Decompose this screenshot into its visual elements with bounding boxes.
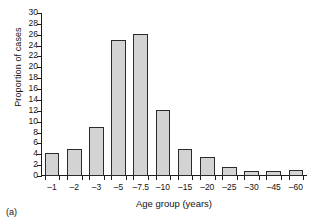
panel-label: (a) [6, 207, 17, 217]
bar [200, 157, 215, 176]
x-tick-mark [59, 176, 60, 180]
x-tick-mark [237, 176, 238, 180]
y-tick-label: 28 [29, 18, 38, 29]
y-tick-label: 14 [29, 94, 38, 105]
bar [289, 170, 304, 176]
bar [244, 171, 259, 176]
y-axis-line [41, 13, 42, 176]
x-tick-label: –5 [114, 182, 123, 193]
y-tick-label: 16 [29, 83, 38, 94]
y-tick-label: 26 [29, 29, 38, 40]
x-tick-mark [281, 176, 282, 180]
x-tick-mark [215, 176, 216, 180]
y-tick-label: 8 [33, 127, 38, 138]
x-tick-label: –2 [70, 182, 79, 193]
x-tick-mark [82, 176, 83, 180]
x-tick-mark [266, 176, 267, 180]
x-tick-label: –20 [200, 182, 214, 193]
x-tick-mark [244, 176, 245, 180]
x-tick-label: –10 [156, 182, 170, 193]
x-tick-mark [45, 176, 46, 180]
bar [67, 149, 82, 176]
y-tick-label: 2 [33, 159, 38, 170]
x-tick-mark [148, 176, 149, 180]
x-tick-mark [259, 176, 260, 180]
y-tick-label: 10 [29, 116, 38, 127]
x-tick-label: –3 [92, 182, 101, 193]
bar [178, 149, 193, 176]
x-tick-mark [133, 176, 134, 180]
x-tick-mark [111, 176, 112, 180]
y-tick-label: 4 [33, 148, 38, 159]
x-tick-label: –25 [222, 182, 236, 193]
x-tick-mark [289, 176, 290, 180]
x-tick-mark [67, 176, 68, 180]
y-tick-label: 18 [29, 72, 38, 83]
x-tick-mark [104, 176, 105, 180]
x-axis-title: Age group (years) [41, 198, 307, 209]
x-tick-label: –7.5 [132, 182, 149, 193]
bar [222, 167, 237, 176]
bar [45, 153, 60, 176]
figure-panel-a: Proportion of cases 02468101214161820222… [0, 0, 319, 224]
bar [89, 127, 104, 176]
y-tick-label: 12 [29, 105, 38, 116]
x-tick-label: –45 [267, 182, 281, 193]
x-tick-mark [178, 176, 179, 180]
bar [156, 110, 171, 176]
y-tick-label: 6 [33, 137, 38, 148]
y-axis-title: Proportion of cases [13, 0, 23, 137]
y-tick-label: 24 [29, 40, 38, 51]
x-tick-mark [89, 176, 90, 180]
x-tick-mark [126, 176, 127, 180]
y-tick-label: 30 [29, 7, 38, 18]
plot-area: 024681012141618202224262830 –1–2–3–5–7.5… [41, 13, 307, 176]
y-tick-label: 0 [33, 170, 38, 181]
bar [111, 40, 126, 176]
x-tick-mark [170, 176, 171, 180]
x-tick-label: –30 [244, 182, 258, 193]
y-tick-label: 20 [29, 61, 38, 72]
x-tick-mark [222, 176, 223, 180]
x-tick-mark [200, 176, 201, 180]
x-tick-mark [192, 176, 193, 180]
x-tick-mark [303, 176, 304, 180]
x-tick-label: –60 [289, 182, 303, 193]
x-tick-label: –1 [47, 182, 56, 193]
bar [133, 34, 148, 176]
y-tick-label: 22 [29, 50, 38, 61]
x-tick-mark [156, 176, 157, 180]
bar [266, 171, 281, 176]
x-tick-label: –15 [178, 182, 192, 193]
